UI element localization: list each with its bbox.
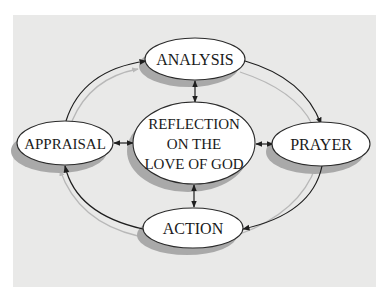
node-appraisal: APPRAISAL: [17, 121, 113, 165]
node-prayer: PRAYER: [272, 122, 370, 166]
arrow-prayer-to-action: [243, 166, 322, 229]
center-label-line-2: ON THE: [167, 136, 221, 152]
center-label-line-3: LOVE OF GOD: [144, 156, 243, 172]
arrow-action-to-appraisal: [65, 166, 143, 229]
node-label-appraisal: APPRAISAL: [24, 136, 106, 152]
node-action: ACTION: [143, 208, 243, 248]
node-label-prayer: PRAYER: [290, 136, 352, 153]
node-analysis: ANALYSIS: [145, 38, 245, 80]
reflection-cycle-diagram: ANALYSIS REFLECTION ON THE LOVE OF GOD A…: [0, 0, 388, 292]
node-label-analysis: ANALYSIS: [156, 51, 234, 68]
center-label-line-1: REFLECTION: [148, 116, 240, 132]
node-label-action: ACTION: [163, 220, 224, 237]
node-reflection: REFLECTION ON THE LOVE OF GOD: [133, 102, 255, 184]
